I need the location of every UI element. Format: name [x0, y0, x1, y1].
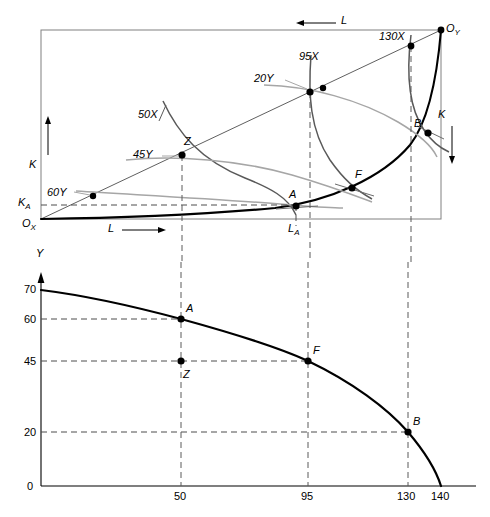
ppf-point-a: [177, 315, 184, 322]
point-60y-dot: [90, 193, 96, 199]
point-z-dot: [178, 151, 185, 158]
axis-label-l-bottom: L: [108, 222, 114, 234]
isoquant-label-130x: 130X: [379, 30, 405, 42]
ppf-ytick-60: 60: [24, 313, 36, 325]
isoquant-95x: [310, 55, 372, 199]
figure-canvas: [0, 0, 490, 517]
arrow-k-left: [45, 116, 51, 155]
origin-y-dot: [438, 27, 445, 34]
origin-y-label: OY: [446, 22, 460, 37]
axis-label-k-left: K: [29, 158, 36, 170]
ppf-point-label-b: B: [413, 415, 420, 427]
isoquant-label-95x: 95X: [299, 50, 319, 62]
ppf-point-z: [177, 357, 184, 364]
edgeworth-box-panel: [41, 20, 455, 262]
point-label-b-top: B: [414, 117, 421, 129]
point-label-f-top: F: [355, 168, 362, 180]
ppf-ytick-0: 0: [27, 480, 33, 492]
ppf-xtick-95: 95: [301, 490, 313, 502]
la-label: LA: [288, 222, 299, 237]
point-label-z-top: Z: [184, 135, 191, 147]
arrow-l-top: [296, 20, 336, 26]
ppf-panel: [38, 262, 476, 486]
ppf-point-label-a: A: [186, 302, 193, 314]
point-a-dot: [292, 202, 299, 209]
ppf-point-label-f: F: [313, 344, 320, 356]
ppf-xtick-140: 140: [431, 490, 449, 502]
ppf-xtick-130: 130: [397, 490, 415, 502]
point-f-dot: [348, 184, 355, 191]
isoquant-label-20y: 20Y: [254, 72, 274, 84]
ppf-point-b: [404, 428, 411, 435]
axis-label-k-right: K: [438, 108, 445, 120]
leader-50x: [159, 105, 166, 121]
axis-label-l-top: L: [341, 14, 347, 26]
isoquant-label-60y: 60Y: [47, 186, 67, 198]
ka-label: KA: [18, 196, 31, 211]
isoquant-label-50x: 50X: [138, 108, 158, 120]
point-20y-dot2: [320, 85, 326, 91]
ppf-point-f: [304, 357, 311, 364]
ppf-y-axis-arrow: [38, 272, 45, 283]
ppf-ytick-70: 70: [24, 283, 36, 295]
point-b-dot: [424, 129, 431, 136]
arrow-l-bottom: [122, 227, 166, 233]
ppf-y-axis-label: Y: [36, 247, 43, 259]
ppf-point-label-z: Z: [183, 368, 190, 380]
point-20y-dot: [306, 88, 313, 95]
arrow-k-right: [449, 126, 455, 164]
origin-x-label: OX: [22, 217, 36, 232]
point-label-a-top: A: [289, 188, 296, 200]
isoquant-label-45y: 45Y: [133, 148, 153, 160]
box-diagonal: [41, 30, 441, 219]
ppf-ytick-45: 45: [24, 355, 36, 367]
ppf-xtick-50: 50: [174, 490, 186, 502]
point-130x-dot: [408, 43, 415, 50]
ppf-ytick-20: 20: [24, 426, 36, 438]
